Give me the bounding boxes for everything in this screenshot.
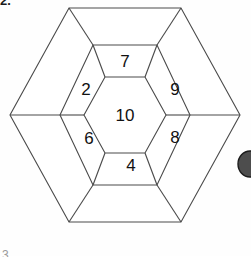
cell-number-center: 10	[116, 106, 135, 125]
partial-dark-blob-icon	[238, 151, 251, 177]
cell-number-middle-upper-right: 9	[170, 80, 179, 99]
cell-number-middle-upper-left: 2	[81, 80, 90, 99]
cell-number-middle-top: 7	[120, 52, 129, 71]
cell-number-middle-lower-right: 8	[170, 128, 179, 147]
cell-number-middle-bottom: 4	[126, 156, 135, 175]
item-number-bottom: 3.	[2, 249, 12, 257]
cell-number-middle-lower-left: 6	[84, 129, 93, 148]
